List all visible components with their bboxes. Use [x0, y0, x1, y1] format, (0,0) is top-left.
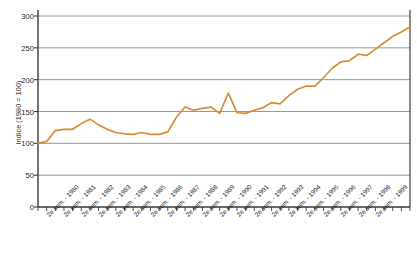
y-axis-tick-label: 100 [10, 139, 34, 148]
y-axis-tick-label: 300 [10, 12, 34, 21]
data-series-line [38, 27, 410, 144]
y-axis-tick-label: 250 [10, 43, 34, 52]
y-axis-tick-labels: 050100150200250300 [0, 0, 34, 272]
y-axis-tick-label: 150 [10, 107, 34, 116]
chart-plot [0, 0, 417, 272]
y-axis-tick-label: 50 [10, 171, 34, 180]
y-axis-tick-label: 200 [10, 75, 34, 84]
y-axis-tick-label: 0 [10, 203, 34, 212]
chart-container: Indice (1980 = 100) 050100150200250300 2… [0, 0, 417, 272]
